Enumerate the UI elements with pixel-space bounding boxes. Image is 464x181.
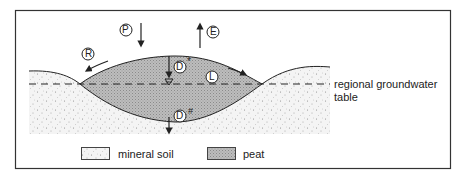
legend-mineral-soil-label: mineral soil	[118, 148, 174, 160]
label-groundwater-line1: regional groundwater	[334, 78, 437, 90]
runoff-arrow-icon	[88, 61, 108, 70]
label-d-bottom: D	[176, 110, 183, 122]
legend-peat-swatch	[208, 148, 236, 160]
label-e: E	[210, 26, 217, 38]
peatland-hydrology-diagram	[0, 0, 464, 181]
label-d-top: D	[176, 61, 183, 73]
legend-peat-label: peat	[243, 148, 264, 160]
label-l: L	[209, 71, 215, 83]
label-d-top-mark: *	[187, 56, 191, 68]
label-d-bottom-mark: #	[188, 105, 193, 117]
label-r: R	[85, 48, 92, 60]
legend-mineral-soil-swatch	[82, 148, 110, 160]
label-p: P	[122, 24, 129, 36]
label-groundwater-line2: table	[334, 91, 358, 103]
